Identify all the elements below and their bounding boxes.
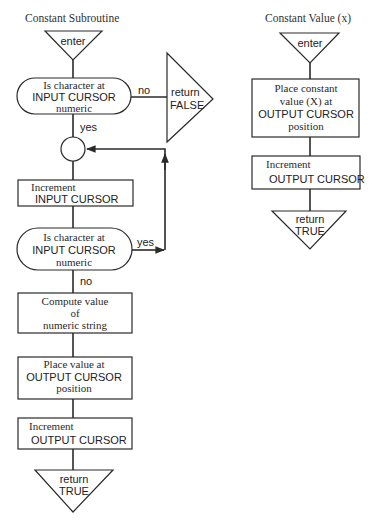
return-false-terminal: return FALSE: [167, 53, 213, 142]
return-label: return: [296, 213, 325, 225]
place-value-box: Place value at OUTPUT CURSOR position: [18, 357, 132, 399]
process-text: Compute value: [42, 295, 109, 307]
process-text: of: [70, 307, 80, 319]
process-text: position: [288, 120, 324, 132]
yes-label: yes: [80, 121, 98, 133]
return-true-terminal: return TRUE: [272, 211, 346, 249]
process-text: value (X) at: [280, 95, 333, 108]
false-label: FALSE: [170, 99, 204, 111]
flowchart-canvas: Constant Subroutine enter Is character a…: [0, 0, 384, 529]
decision-text: Is character at: [43, 79, 105, 91]
process-text: Place constant: [274, 82, 337, 94]
process-text: Increment: [29, 420, 74, 432]
true-label: TRUE: [59, 485, 89, 497]
process-text: OUTPUT CURSOR: [269, 173, 365, 185]
decision-text: INPUT CURSOR: [32, 244, 116, 256]
decision-text: numeric: [56, 102, 92, 114]
process-text: numeric string: [43, 319, 107, 331]
process-text: Place value at: [43, 358, 104, 370]
yes-label: yes: [137, 236, 155, 248]
no-label: no: [80, 275, 92, 287]
junction-connector: [61, 137, 85, 161]
decision-text: Is character at: [43, 231, 105, 243]
process-text: INPUT CURSOR: [35, 193, 119, 205]
decision-text: numeric: [56, 256, 92, 268]
process-text: OUTPUT CURSOR: [31, 434, 127, 446]
return-true-terminal: return TRUE: [35, 470, 113, 512]
right-flow-title: Constant Value (x): [265, 12, 351, 25]
place-constant-box: Place constant value (X) at OUTPUT CURSO…: [252, 79, 359, 137]
left-flow-title: Constant Subroutine: [25, 12, 119, 24]
enter-terminal: enter: [45, 31, 102, 60]
true-label: TRUE: [295, 225, 325, 237]
enter-label: enter: [60, 35, 85, 47]
enter-label: enter: [297, 37, 322, 49]
increment-input-cursor-box: Increment INPUT CURSOR: [18, 180, 133, 206]
decision-input-numeric-2: Is character at INPUT CURSOR numeric: [17, 228, 132, 270]
no-label: no: [138, 84, 150, 96]
decision-input-numeric-1: Is character at INPUT CURSOR numeric: [17, 78, 131, 114]
compute-value-box: Compute value of numeric string: [18, 293, 132, 333]
return-label: return: [171, 86, 200, 98]
process-text: position: [56, 382, 92, 394]
constant-value-flow: Constant Value (x) enter Place constant …: [252, 12, 365, 249]
process-text: OUTPUT CURSOR: [258, 108, 354, 120]
process-text: Increment: [266, 158, 311, 170]
return-label: return: [60, 473, 89, 485]
increment-output-cursor-box: Increment OUTPUT CURSOR: [18, 418, 132, 449]
increment-output-cursor-box: Increment OUTPUT CURSOR: [252, 156, 365, 189]
constant-subroutine-flow: Constant Subroutine enter Is character a…: [17, 12, 213, 512]
enter-terminal: enter: [280, 33, 339, 63]
process-text: Increment: [31, 181, 76, 193]
